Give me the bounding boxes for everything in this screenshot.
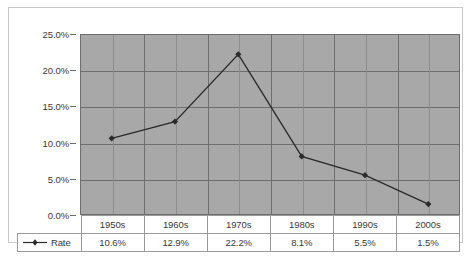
data-table: 1950s1960s1970s1980s1990s2000s Rate 10.6… <box>17 215 460 252</box>
table-cell-category: 1970s <box>207 216 270 234</box>
table-cell-category: 1980s <box>270 216 333 234</box>
table-cell-category: 1950s <box>81 216 144 234</box>
table-cell-category: 1990s <box>333 216 396 234</box>
table-cell-value: 10.6% <box>81 234 144 252</box>
table-row-categories: 1950s1960s1970s1980s1990s2000s <box>18 216 460 234</box>
table-cell-value: 22.2% <box>207 234 270 252</box>
series-rate <box>80 34 460 215</box>
table-cell-value: 12.9% <box>144 234 207 252</box>
y-axis-tick-label: 5.0% <box>48 173 69 184</box>
y-axis-tick-label: 25.0% <box>43 29 69 40</box>
y-axis: 0.0%5.0%10.0%15.0%20.0%25.0% <box>9 8 80 215</box>
table-cell-value: 1.5% <box>396 234 459 252</box>
table-corner-cell <box>18 216 82 234</box>
legend-entry-rate: Rate <box>18 234 82 252</box>
table-row-values: Rate 10.6%12.9%22.2%8.1%5.5%1.5% <box>18 234 460 252</box>
data-point-marker <box>362 172 368 178</box>
chart-container: 0.0%5.0%10.0%15.0%20.0%25.0% 1950s1960s1… <box>8 7 463 243</box>
y-axis-tick-mark <box>70 143 76 144</box>
y-axis-tick-label: 20.0% <box>43 65 69 76</box>
series-line <box>112 54 429 204</box>
y-axis-tick-mark <box>70 34 76 35</box>
y-axis-tick-mark <box>70 106 76 107</box>
y-axis-tick-label: 10.0% <box>43 137 69 148</box>
table-cell-value: 5.5% <box>333 234 396 252</box>
data-point-marker <box>425 201 431 207</box>
legend-marker-icon <box>22 238 48 247</box>
y-axis-tick-mark <box>70 70 76 71</box>
table-cell-value: 8.1% <box>270 234 333 252</box>
y-axis-tick-mark <box>70 179 76 180</box>
table-cell-category: 1960s <box>144 216 207 234</box>
y-axis-tick-label: 15.0% <box>43 101 69 112</box>
data-point-marker <box>109 135 115 141</box>
legend-label-rate: Rate <box>51 237 71 248</box>
table-cell-category: 2000s <box>396 216 459 234</box>
data-point-marker <box>299 153 305 159</box>
